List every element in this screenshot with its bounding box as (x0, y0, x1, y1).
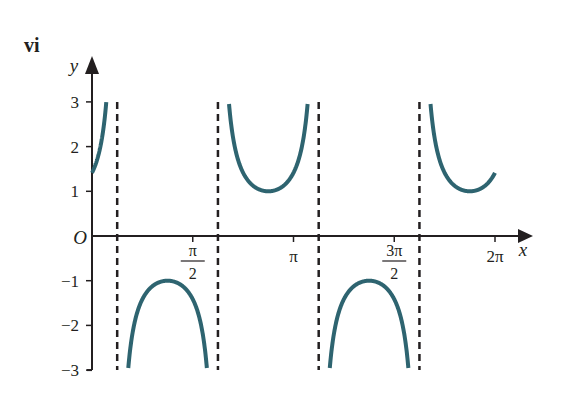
origin-label: O (73, 227, 87, 248)
part-label: vi (24, 34, 40, 56)
axes (85, 56, 533, 370)
y-tick-label: 3 (71, 93, 80, 112)
x-tick-label: 2π (486, 247, 504, 266)
x-tick-label-denominator: 2 (390, 265, 398, 282)
x-tick-label-numerator: π (189, 242, 197, 259)
y-tick-label: −1 (61, 272, 79, 291)
x-tick-label: π (289, 247, 298, 266)
curve-branch (229, 104, 308, 191)
y-tick-label: 1 (71, 182, 80, 201)
curve-branch (128, 281, 207, 368)
y-tick-label: 2 (71, 138, 80, 157)
y-tick-label: −3 (61, 361, 79, 380)
sec-graph: vi yxO321−1−2−3π2π3π22π (0, 0, 562, 393)
y-axis-label: y (68, 55, 79, 76)
curve-branch (431, 104, 495, 191)
x-axis-label: x (518, 239, 528, 260)
x-tick-label-denominator: 2 (189, 265, 197, 282)
x-tick-label-numerator: 3π (386, 242, 402, 259)
y-tick-label: −2 (61, 316, 79, 335)
curve-branch (330, 281, 409, 368)
curve-branch (92, 102, 106, 173)
y-axis-arrow-icon (85, 56, 99, 74)
